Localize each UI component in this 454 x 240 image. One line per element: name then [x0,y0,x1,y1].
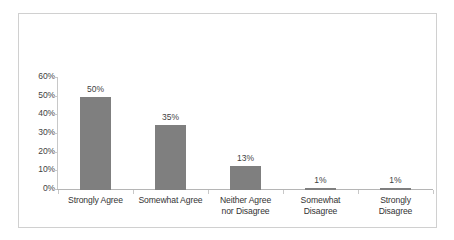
x-axis-tick-mark [208,190,209,194]
bar-value-label: 1% [358,175,433,185]
y-axis-tick-mark [53,189,57,190]
category-label-line: Disagree [281,206,361,217]
y-axis-tick-label: 40% [19,109,55,118]
y-axis-tick-text: 50% [21,91,55,100]
x-axis-category-label: Somewhat Agree [131,195,211,206]
x-axis-tick-mark [433,190,434,194]
category-label-line: Disagree [356,206,436,217]
y-axis-tick-text: 10% [21,165,55,174]
bar[interactable] [230,166,261,190]
x-axis-category-label: StronglyDisagree [356,195,436,217]
bar-value-label: 35% [133,112,208,122]
y-axis-tick-label: 30% [19,128,55,137]
category-label-line: nor Disagree [206,206,286,217]
bar-value-label: 13% [208,153,283,163]
y-axis-tick-mark [53,152,57,153]
bar[interactable] [305,188,336,190]
y-axis-tick-mark [53,170,57,171]
y-axis-tick-label: 60% [19,72,55,81]
y-axis-tick-label: 50% [19,91,55,100]
x-axis-category-label: SomewhatDisagree [281,195,361,217]
y-axis-tick-text: 20% [21,147,55,156]
x-axis-category-label: Neither Agreenor Disagree [206,195,286,217]
bar[interactable] [380,188,411,190]
category-label-line: Strongly [356,195,436,206]
y-axis-tick-mark [53,77,57,78]
category-label-line: Strongly Agree [56,195,136,206]
bar-value-label: 1% [283,175,358,185]
y-axis-tick-label: 10% [19,165,55,174]
y-axis-tick-text: 60% [21,72,55,81]
x-axis-tick-mark [58,190,59,194]
y-axis-tick-mark [53,114,57,115]
bar[interactable] [155,125,186,190]
y-axis-tick-mark [53,133,57,134]
y-axis-tick-text: 30% [21,128,55,137]
x-axis-tick-mark [283,190,284,194]
x-axis-tick-mark [133,190,134,194]
x-axis-category-label: Strongly Agree [56,195,136,206]
category-label-line: Somewhat Agree [131,195,211,206]
y-axis-tick-text: 0% [21,184,55,193]
chart-frame: 0%10%20%30%40%50%60% 50%35%13%1%1% Stron… [18,13,437,228]
category-label-line: Neither Agree [206,195,286,206]
category-label-line: Somewhat [281,195,361,206]
bar-value-label: 50% [58,84,133,94]
x-axis-tick-mark [358,190,359,194]
bar[interactable] [80,97,111,190]
y-axis-tick-mark [53,96,57,97]
y-axis-tick-label: 20% [19,147,55,156]
y-axis-tick-label: 0% [19,184,55,193]
y-axis-line [57,77,58,190]
y-axis-tick-text: 40% [21,109,55,118]
bar-chart-plot-area: 0%10%20%30%40%50%60% 50%35%13%1%1% Stron… [19,14,438,229]
